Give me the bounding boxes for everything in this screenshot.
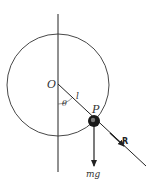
pendulum-diagram: O l θ P R mg [0, 0, 149, 188]
ball-highlight [91, 118, 95, 122]
weight-label: mg [86, 169, 101, 179]
reaction-label: R [122, 137, 128, 146]
string-line [58, 84, 146, 166]
point-label: P [91, 103, 100, 116]
length-label: l [76, 91, 79, 101]
angle-label: θ [62, 99, 67, 108]
origin-label: O [47, 78, 56, 91]
